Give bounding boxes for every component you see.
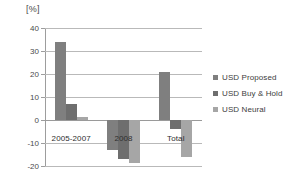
- y-tick-mark: [41, 97, 45, 98]
- plot-area: 2005-20072008Total: [45, 28, 202, 166]
- category-label-total: Total: [150, 134, 202, 143]
- y-tick-mark: [41, 51, 45, 52]
- legend-item-usd-proposed[interactable]: USD Proposed: [213, 69, 301, 85]
- gridline-neg20: [45, 166, 202, 167]
- legend-swatch-icon: [213, 75, 218, 80]
- y-tick-label: 10: [17, 93, 39, 102]
- legend-label: USD Buy & Hold: [222, 89, 283, 98]
- y-tick-mark: [41, 166, 45, 167]
- gridline-20: [45, 74, 202, 75]
- y-tick-mark: [41, 74, 45, 75]
- gridline-40: [45, 28, 202, 29]
- bar-2005-2007-usd-neural: [77, 117, 88, 120]
- bar-total-usd-proposed: [159, 72, 170, 120]
- y-tick-mark: [41, 28, 45, 29]
- legend-label: USD Proposed: [222, 73, 277, 82]
- gridline-30: [45, 51, 202, 52]
- y-tick-label: 0: [17, 116, 39, 125]
- legend-label: USD Neural: [222, 105, 266, 114]
- legend-item-usd-buy-hold[interactable]: USD Buy & Hold: [213, 85, 301, 101]
- y-tick-mark: [41, 120, 45, 121]
- gridline-10: [45, 97, 202, 98]
- legend-swatch-icon: [213, 91, 218, 96]
- y-tick-mark: [41, 143, 45, 144]
- legend-item-usd-neural[interactable]: USD Neural: [213, 101, 301, 117]
- y-tick-label: 20: [17, 70, 39, 79]
- legend-swatch-icon: [213, 107, 218, 112]
- y-tick-label: 30: [17, 47, 39, 56]
- category-label-2008: 2008: [97, 134, 149, 143]
- bar-2005-2007-usd-proposed: [55, 42, 66, 120]
- y-axis-tick-labels: 403020100-10-20: [14, 0, 39, 172]
- category-label-2005-2007: 2005-2007: [45, 134, 97, 143]
- y-tick-label: -20: [17, 162, 39, 171]
- y-tick-label: -10: [17, 139, 39, 148]
- bar-total-usd-buy-hold: [170, 120, 181, 129]
- y-tick-label: 40: [17, 24, 39, 33]
- chart-legend: USD ProposedUSD Buy & HoldUSD Neural: [213, 69, 301, 117]
- bar-chart-figure: [%] 403020100-10-20 2005-20072008Total U…: [0, 0, 302, 172]
- bar-2005-2007-usd-buy-hold: [66, 104, 77, 120]
